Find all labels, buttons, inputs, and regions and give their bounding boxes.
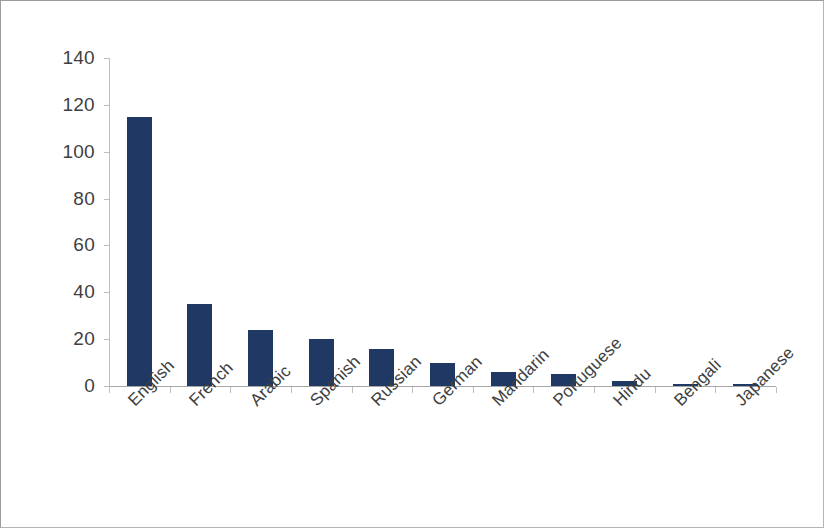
x-axis-category-labels: EnglishFrenchArabicSpanishRussianGermanM…	[109, 391, 809, 491]
y-axis-tick-label: 0	[49, 376, 95, 395]
bar	[127, 117, 152, 386]
y-axis-tick-label: 140	[49, 48, 95, 67]
bar-series	[109, 58, 776, 386]
y-axis-tick-label: 100	[49, 142, 95, 161]
y-axis-tick-label: 60	[49, 235, 95, 254]
y-axis-tick-label: 20	[49, 329, 95, 348]
y-axis-labels: 020406080100120140	[45, 1, 95, 528]
y-axis-tick-label: 80	[49, 189, 95, 208]
y-axis-tick-label: 40	[49, 282, 95, 301]
chart-page-frame: 020406080100120140 EnglishFrenchArabicSp…	[0, 0, 824, 528]
y-axis-tick-label: 120	[49, 95, 95, 114]
bar-chart: 020406080100120140 EnglishFrenchArabicSp…	[1, 1, 824, 528]
